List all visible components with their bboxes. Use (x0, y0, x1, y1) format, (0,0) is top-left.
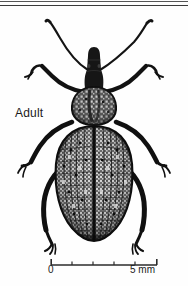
pronotum (72, 87, 116, 125)
beetle-illustration (0, 0, 188, 286)
adult-label: Adult (15, 106, 43, 120)
head-rostrum (85, 47, 104, 88)
elytra (56, 124, 133, 242)
scale-label-min: 0 (48, 264, 54, 275)
figure-panel: Adult 0 5 mm (0, 0, 188, 286)
scale-label-max: 5 mm (130, 264, 155, 275)
